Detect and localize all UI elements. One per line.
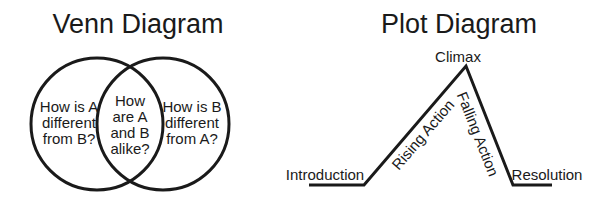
venn-center-line-1: How bbox=[115, 92, 145, 109]
plot-label-climax: Climax bbox=[435, 48, 481, 65]
venn-center-line-2: are A bbox=[112, 108, 147, 125]
plot-diagram: Plot Diagram Introduction Climax Rising … bbox=[286, 9, 583, 185]
venn-diagram: Venn Diagram How is A different from B? … bbox=[31, 9, 229, 190]
venn-left-line-3: from B? bbox=[43, 130, 96, 147]
venn-center-region: How are A and B alike? bbox=[110, 92, 149, 157]
venn-left-line-2: different bbox=[42, 114, 97, 131]
venn-right-line-3: from A? bbox=[166, 130, 218, 147]
venn-center-line-4: alike? bbox=[110, 140, 149, 157]
venn-right-line-2: different bbox=[165, 114, 220, 131]
venn-right-region: How is B different from A? bbox=[162, 98, 221, 147]
venn-title: Venn Diagram bbox=[52, 9, 223, 39]
venn-right-line-1: How is B bbox=[162, 98, 221, 115]
venn-left-region: How is A different from B? bbox=[40, 98, 98, 147]
plot-label-rising-action: Rising Action bbox=[388, 96, 457, 173]
plot-label-resolution: Resolution bbox=[512, 166, 583, 183]
plot-label-introduction: Introduction bbox=[286, 166, 364, 183]
plot-label-falling-action: Falling Action bbox=[454, 89, 503, 178]
diagram-canvas: Venn Diagram How is A different from B? … bbox=[0, 0, 611, 204]
plot-title: Plot Diagram bbox=[381, 9, 537, 39]
venn-left-line-1: How is A bbox=[40, 98, 98, 115]
venn-center-line-3: and B bbox=[110, 124, 149, 141]
